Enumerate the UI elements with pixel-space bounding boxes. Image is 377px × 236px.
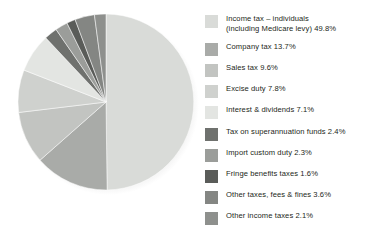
legend-item-import-custom-duty[interactable]: Import custom duty 2.3% bbox=[205, 148, 377, 162]
legend-swatch-fringe-benefits-taxes bbox=[205, 170, 218, 183]
legend-swatch-interest-and-dividends bbox=[205, 106, 218, 119]
legend-label-other-income-taxes: Other income taxes 2.1% bbox=[226, 211, 313, 221]
legend-swatch-import-custom-duty bbox=[205, 149, 218, 162]
legend-label-tax-on-superannuation-funds: Tax on superannuation funds 2.4% bbox=[226, 127, 346, 137]
legend-label-income-tax-individuals: Income tax – individuals (including Medi… bbox=[226, 14, 336, 35]
chart-legend: Income tax – individuals (including Medi… bbox=[205, 10, 377, 232]
legend-swatch-company-tax bbox=[205, 43, 218, 56]
legend-label-fringe-benefits-taxes: Fringe benefits taxes 1.6% bbox=[226, 169, 318, 179]
pie-svg bbox=[14, 10, 200, 196]
pie-slices bbox=[18, 14, 194, 190]
legend-label-excise-duty: Excise duty 7.8% bbox=[226, 84, 286, 94]
legend-swatch-other-taxes-fees-and-fines bbox=[205, 191, 218, 204]
legend-item-fringe-benefits-taxes[interactable]: Fringe benefits taxes 1.6% bbox=[205, 169, 377, 183]
legend-swatch-tax-on-superannuation-funds bbox=[205, 128, 218, 141]
legend-swatch-income-tax-individuals bbox=[205, 15, 218, 28]
legend-swatch-excise-duty bbox=[205, 85, 218, 98]
legend-item-other-income-taxes[interactable]: Other income taxes 2.1% bbox=[205, 211, 377, 225]
legend-label-import-custom-duty: Import custom duty 2.3% bbox=[226, 148, 312, 158]
pie-chart-figure: Income tax – individuals (including Medi… bbox=[0, 0, 377, 236]
legend-label-company-tax: Company tax 13.7% bbox=[226, 42, 296, 52]
legend-label-interest-and-dividends: Interest & dividends 7.1% bbox=[226, 105, 314, 115]
legend-item-interest-and-dividends[interactable]: Interest & dividends 7.1% bbox=[205, 105, 377, 119]
legend-swatch-sales-tax bbox=[205, 64, 218, 77]
legend-item-other-taxes-fees-and-fines[interactable]: Other taxes, fees & fines 3.6% bbox=[205, 190, 377, 204]
legend-item-tax-on-superannuation-funds[interactable]: Tax on superannuation funds 2.4% bbox=[205, 127, 377, 141]
legend-item-excise-duty[interactable]: Excise duty 7.8% bbox=[205, 84, 377, 98]
legend-label-other-taxes-fees-and-fines: Other taxes, fees & fines 3.6% bbox=[226, 190, 331, 200]
legend-item-sales-tax[interactable]: Sales tax 9.6% bbox=[205, 63, 377, 77]
pie-chart-graphic bbox=[14, 10, 200, 196]
legend-item-income-tax-individuals[interactable]: Income tax – individuals (including Medi… bbox=[205, 14, 377, 35]
legend-label-sales-tax: Sales tax 9.6% bbox=[226, 63, 278, 73]
legend-item-company-tax[interactable]: Company tax 13.7% bbox=[205, 42, 377, 56]
pie-slice[interactable] bbox=[106, 14, 194, 190]
legend-swatch-other-income-taxes bbox=[205, 212, 218, 225]
